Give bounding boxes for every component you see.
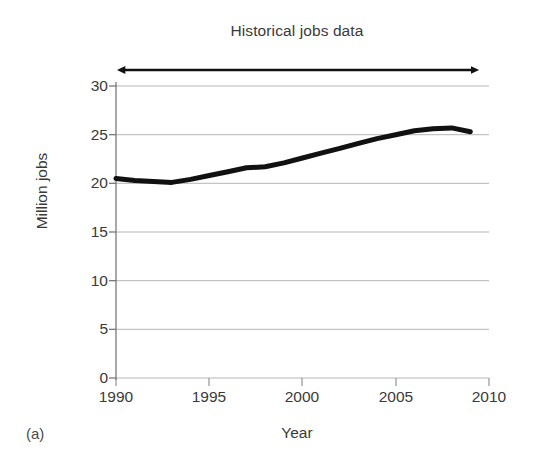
y-tick-label-25: 25 — [72, 127, 108, 143]
x-tick-label-2000: 2000 — [267, 389, 337, 405]
x-axis-title: Year — [116, 424, 478, 442]
y-tick-label-30: 30 — [72, 78, 108, 94]
y-tick-label-5: 5 — [72, 321, 108, 337]
x-tick-label-2010: 2010 — [454, 389, 524, 405]
panel-caption: (a) — [26, 425, 44, 442]
y-axis-ticks — [109, 86, 116, 378]
y-tick-label-0: 0 — [72, 370, 108, 386]
x-axis-ticks — [116, 378, 489, 386]
x-axis-tick-labels: 1990 1995 2000 2005 2010 — [0, 389, 550, 413]
figure-panel: Historical jobs data — [0, 0, 550, 467]
series-historical-jobs — [116, 128, 470, 182]
y-tick-label-15: 15 — [72, 224, 108, 240]
x-tick-label-1995: 1995 — [174, 389, 244, 405]
x-tick-label-2005: 2005 — [361, 389, 431, 405]
y-tick-label-20: 20 — [72, 175, 108, 191]
y-axis-title: Million jobs — [33, 131, 51, 251]
x-tick-label-1990: 1990 — [81, 389, 151, 405]
y-tick-label-10: 10 — [72, 273, 108, 289]
